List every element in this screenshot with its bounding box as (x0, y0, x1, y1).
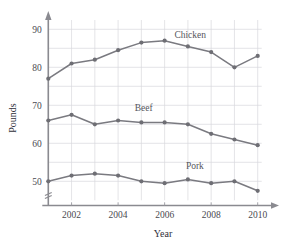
y-tick-label: 90 (32, 25, 42, 35)
data-point (69, 174, 73, 178)
series-label-beef: Beef (135, 103, 154, 113)
x-axis-title: Year (154, 228, 173, 239)
data-point (186, 122, 190, 126)
series-label-pork: Pork (186, 161, 204, 171)
y-axis-tick-labels: 5060708090 (32, 25, 42, 187)
data-point (116, 174, 120, 178)
x-tick-label: 2006 (155, 210, 174, 220)
x-tick-label: 2002 (62, 210, 81, 220)
vertical-gridlines (48, 20, 257, 200)
y-tick-label: 50 (32, 177, 42, 187)
series-annotation-labels: ChickenBeefPork (135, 30, 207, 171)
x-axis-tick-labels: 20022004200620082010 (62, 210, 267, 220)
data-point (232, 179, 236, 183)
data-point (139, 41, 143, 45)
data-point (139, 120, 143, 124)
data-point (116, 48, 120, 52)
data-point (139, 179, 143, 183)
data-point (46, 118, 50, 122)
line-chart: 5060708090 20022004200620082010 ChickenB… (0, 0, 282, 245)
series-chicken (46, 39, 260, 81)
series-pork (46, 172, 260, 193)
series-line-beef (48, 115, 257, 145)
y-tick-label: 80 (32, 63, 42, 73)
x-tick-label: 2004 (109, 210, 128, 220)
data-point (209, 50, 213, 54)
chart-canvas: 5060708090 20022004200620082010 ChickenB… (0, 0, 282, 245)
data-point (232, 65, 236, 69)
x-tick-label: 2010 (248, 210, 267, 220)
data-point (209, 132, 213, 136)
y-axis-arrowhead (45, 11, 51, 20)
horizontal-gridlines (48, 29, 261, 181)
series-line-chicken (48, 41, 257, 79)
data-point (163, 39, 167, 43)
data-point (256, 189, 260, 193)
y-tick-label: 70 (32, 101, 42, 111)
data-point (163, 181, 167, 185)
data-point (46, 179, 50, 183)
data-point (232, 137, 236, 141)
data-point (69, 61, 73, 65)
data-point (256, 143, 260, 147)
series-beef (46, 113, 260, 148)
x-axis-arrowhead (271, 202, 279, 208)
x-tick-label: 2008 (202, 210, 221, 220)
data-point (46, 77, 50, 81)
y-tick-label: 60 (32, 139, 42, 149)
data-point (209, 181, 213, 185)
series-label-chicken: Chicken (174, 30, 206, 40)
data-point (186, 177, 190, 181)
y-axis-title: Pounds (7, 103, 18, 133)
data-point (93, 172, 97, 176)
data-point (163, 120, 167, 124)
data-point (93, 122, 97, 126)
data-point (93, 58, 97, 62)
data-point (186, 44, 190, 48)
series-line-pork (48, 174, 257, 191)
data-point (69, 113, 73, 117)
data-series-group (46, 39, 260, 193)
data-point (116, 118, 120, 122)
data-point (256, 54, 260, 58)
